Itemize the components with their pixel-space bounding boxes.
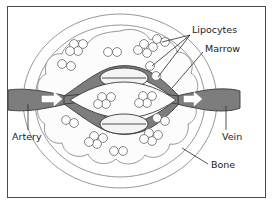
lipocyte-single (146, 62, 155, 71)
label-artery: Artery (12, 131, 42, 142)
label-bone: Bone (211, 159, 235, 170)
figure-frame: Lipocytes Marrow Artery Vein Bone (0, 0, 274, 206)
bone-marrow-diagram: Lipocytes Marrow Artery Vein Bone (0, 0, 274, 206)
label-marrow: Marrow (205, 43, 240, 54)
label-lipocytes: Lipocytes (192, 24, 237, 35)
label-vein: Vein (222, 131, 242, 142)
